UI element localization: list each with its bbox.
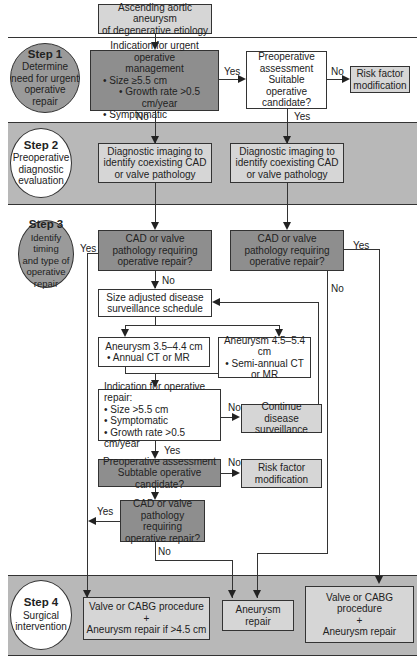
- connector: [92, 521, 120, 522]
- indication-title: Indication for operative repair:: [104, 381, 218, 404]
- step1-line: need for urgent: [11, 73, 79, 85]
- connector: [155, 560, 232, 561]
- step4-title: Step 4: [11, 597, 71, 609]
- indication-bullet: • Size >5.5 cm: [104, 404, 168, 416]
- step2-line: diagnostic: [11, 164, 71, 176]
- step3-line: operative: [19, 266, 73, 278]
- connector: [318, 302, 319, 404]
- connector: [287, 183, 288, 225]
- repair-line: Aneurysm repair: [225, 604, 291, 627]
- imaging-line: identify coexisting CAD: [233, 157, 341, 169]
- combo-line: Aneurysm repair if >4.5 cm: [86, 624, 207, 636]
- step1-line: Determine: [11, 61, 79, 73]
- step2-line: evaluation: [11, 175, 71, 187]
- aneurysm-small-box: Aneurysm 3.5–4.4 cm • Annual CT or MR: [98, 337, 210, 367]
- label-no: No: [331, 66, 344, 77]
- preop-line: Suitable operative: [249, 74, 324, 97]
- start-box: Ascending aortic aneurysm of degenerativ…: [98, 4, 212, 34]
- label-no: No: [162, 275, 175, 286]
- risk-line: modification: [353, 80, 407, 92]
- step3-line: and type of: [19, 255, 73, 267]
- connector: [87, 253, 98, 254]
- arrow-right-icon: [232, 469, 240, 477]
- connector: [155, 183, 156, 225]
- cad3-line: CAD or valve: [123, 498, 202, 510]
- indication-bullet: • Growth rate >0.5 cm/year: [104, 427, 218, 450]
- step2-line: Preoperative: [11, 152, 71, 164]
- label-yes: Yes: [294, 111, 310, 122]
- step2-circle: Step 2 Preoperative diagnostic evaluatio…: [10, 128, 72, 198]
- label-no: No: [228, 402, 241, 413]
- label-no: No: [228, 457, 241, 468]
- imaging-box-left: Diagnostic imaging to identify coexistin…: [98, 143, 212, 183]
- cad-line: operative repair?: [101, 256, 209, 268]
- connector: [327, 271, 328, 553]
- combo-right-line: +: [308, 615, 411, 627]
- step1-line: repair: [11, 96, 79, 108]
- step3-line: repair: [19, 278, 73, 290]
- imaging-box-right: Diagnostic imaging to identify coexistin…: [230, 143, 344, 183]
- connector: [155, 542, 156, 560]
- arrow-down-icon: [121, 329, 129, 337]
- step3-circle: Step 3 Identify timing and type of opera…: [18, 220, 74, 288]
- risk2-line: modification: [244, 474, 319, 486]
- indication-box: Indication for operative repair: • Size …: [98, 389, 221, 441]
- continue-line: Continue disease: [244, 401, 319, 424]
- surveillance-line: surveillance schedule: [101, 303, 209, 315]
- urgent-title: management: [93, 63, 216, 75]
- arrow-down-icon: [151, 42, 159, 50]
- small-line: • Annual CT or MR: [101, 352, 190, 364]
- small-line: Aneurysm 3.5–4.4 cm: [101, 341, 207, 353]
- step1-line: operative: [11, 84, 79, 96]
- cad-line: CAD or valve: [233, 233, 341, 245]
- divider-step4-top: [8, 575, 417, 576]
- label-no: No: [331, 283, 344, 294]
- medium-line: or MR: [221, 369, 308, 381]
- imaging-line: Diagnostic imaging to: [233, 146, 341, 158]
- cad-box-right: CAD or valve pathology requiring operati…: [230, 230, 344, 271]
- connector: [257, 553, 328, 554]
- preop-line: Preoperative: [249, 51, 324, 63]
- imaging-line: Diagnostic imaging to: [101, 146, 209, 158]
- cad-line: pathology requiring: [101, 245, 209, 257]
- imaging-line: identify coexisting CAD: [101, 157, 209, 169]
- step3-title: Step 3: [19, 219, 73, 231]
- arrow-right-icon: [232, 413, 240, 421]
- cad-line: pathology requiring: [233, 245, 341, 257]
- risk-line: Risk factor: [353, 68, 407, 80]
- risk2-line: Risk factor: [244, 462, 319, 474]
- cad-line: operative repair?: [233, 256, 341, 268]
- combo-line: Valve or CABG procedure: [86, 601, 207, 613]
- urgent-bullet: • Growth rate >0.5 cm/year: [93, 86, 216, 109]
- divider-top: [8, 37, 417, 38]
- combo-right-line: Aneurysm repair: [308, 626, 411, 638]
- valve-cabg-repair-box-left: Valve or CABG procedure + Aneurysm repai…: [83, 597, 210, 640]
- step3-line: Identify timing: [19, 232, 73, 255]
- step1-circle: Step 1 Determine need for urgent operati…: [10, 43, 80, 113]
- connector: [220, 302, 319, 303]
- cad-box-left: CAD or valve pathology requiring operati…: [98, 230, 212, 271]
- imaging-line: or valve pathology: [233, 169, 341, 181]
- medium-line: Aneurysm 4.5–5.4 cm: [221, 335, 308, 358]
- arrow-down-icon: [375, 576, 383, 584]
- label-yes: Yes: [224, 66, 240, 77]
- surveillance-box: Size adjusted disease surveillance sched…: [98, 289, 212, 317]
- imaging-line: or valve pathology: [101, 169, 209, 181]
- preop-assessment-box-2: Preoperative assessment Subtable operati…: [98, 459, 221, 487]
- preop2-line: Preoperative assessment: [101, 456, 218, 468]
- surveillance-line: Size adjusted disease: [101, 292, 209, 304]
- cad-line: CAD or valve: [101, 233, 209, 245]
- preop2-line: Subtable operative candidate?: [101, 467, 218, 490]
- label-yes: Yes: [164, 445, 180, 456]
- connector: [219, 79, 239, 80]
- risk-factor-box-2: Risk factor modification: [241, 459, 322, 488]
- valve-cabg-repair-box-right: Valve or CABG procedure + Aneurysm repai…: [305, 586, 414, 643]
- medium-line: • Semi-annual CT: [221, 358, 308, 370]
- arrow-left-icon: [212, 298, 220, 306]
- step1-title: Step 1: [11, 49, 79, 61]
- connector: [344, 249, 379, 250]
- cad-box-3: CAD or valve pathology requiring operati…: [120, 500, 205, 542]
- connector: [379, 249, 380, 579]
- combo-right-line: Valve or CABG procedure: [308, 592, 411, 615]
- connector: [87, 253, 88, 598]
